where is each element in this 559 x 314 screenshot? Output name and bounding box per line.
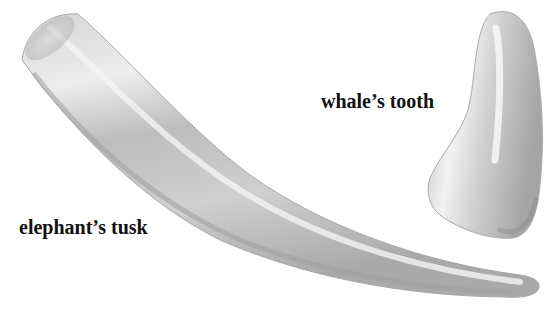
whale-tooth-label: whale’s tooth — [321, 91, 434, 111]
whale-tooth-shape — [428, 12, 542, 239]
elephant-tusk-label: elephant’s tusk — [19, 217, 148, 237]
ivory-comparison-figure: whale’s tooth elephant’s tusk — [0, 0, 559, 314]
illustration — [0, 0, 559, 314]
